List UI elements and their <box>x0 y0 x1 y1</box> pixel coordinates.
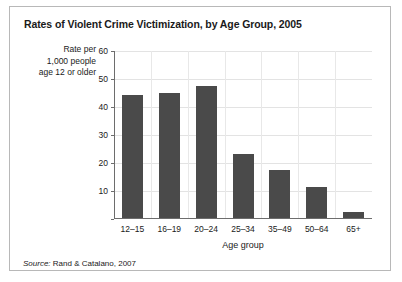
x-tick-label-35–49: 35–49 <box>268 224 292 234</box>
source-text: Rand & Catalano, 2007 <box>53 259 136 268</box>
bar-12–15 <box>122 95 143 218</box>
y-tick-mark-30 <box>111 135 114 136</box>
bar-16–19 <box>159 93 180 218</box>
y-axis-line <box>114 51 115 219</box>
y-tick-label-10: 10 <box>99 186 108 196</box>
x-tick-label-16–19: 16–19 <box>157 224 181 234</box>
y-tick-label-20: 20 <box>99 158 108 168</box>
gridline-vertical-4 <box>261 51 262 219</box>
y-tick-mark-10 <box>111 191 114 192</box>
source-note: Source: Rand & Catalano, 2007 <box>23 259 136 268</box>
y-tick-label-50: 50 <box>99 74 108 84</box>
gridline-vertical-6 <box>335 51 336 219</box>
y-axis-title-line-3: age 12 or older <box>20 67 96 79</box>
bar-65+ <box>343 212 364 218</box>
gridline-vertical-2 <box>188 51 189 219</box>
gridline-40 <box>114 107 372 108</box>
plot-area: 102030405060 12–1516–1920–2425–3435–4950… <box>114 51 372 219</box>
gridline-50 <box>114 79 372 80</box>
x-axis-title: Age group <box>114 240 372 250</box>
y-tick-label-40: 40 <box>99 102 108 112</box>
gridline-60 <box>114 51 372 52</box>
y-axis-title-line-1: Rate per <box>20 44 96 56</box>
gridline-vertical-1 <box>151 51 152 219</box>
bar-25–34 <box>233 154 254 218</box>
source-label: Source: <box>23 259 51 268</box>
chart-figure: Rates of Violent Crime Victimization, by… <box>9 6 391 271</box>
y-axis-title-line-2: 1,000 people <box>20 56 96 68</box>
x-tick-label-12–15: 12–15 <box>121 224 145 234</box>
y-tick-label-30: 30 <box>99 130 108 140</box>
y-tick-mark-20 <box>111 163 114 164</box>
x-tick-label-20–24: 20–24 <box>194 224 218 234</box>
x-tick-label-25–34: 25–34 <box>231 224 255 234</box>
bar-20–24 <box>196 86 217 218</box>
x-tick-label-65+: 65+ <box>346 224 360 234</box>
bar-50–64 <box>306 187 327 218</box>
y-tick-mark-60 <box>111 51 114 52</box>
bar-35–49 <box>269 170 290 218</box>
gridline-30 <box>114 135 372 136</box>
gridline-vertical-5 <box>298 51 299 219</box>
x-axis-line <box>114 218 372 219</box>
page-title: Rates of Violent Crime Victimization, by… <box>24 18 302 30</box>
y-axis-title: Rate per 1,000 people age 12 or older <box>20 44 96 79</box>
x-tick-label-50–64: 50–64 <box>305 224 329 234</box>
y-tick-mark-50 <box>111 79 114 80</box>
y-tick-mark-0 <box>111 219 114 220</box>
y-tick-mark-40 <box>111 107 114 108</box>
y-tick-label-60: 60 <box>99 46 108 56</box>
gridline-vertical-3 <box>225 51 226 219</box>
